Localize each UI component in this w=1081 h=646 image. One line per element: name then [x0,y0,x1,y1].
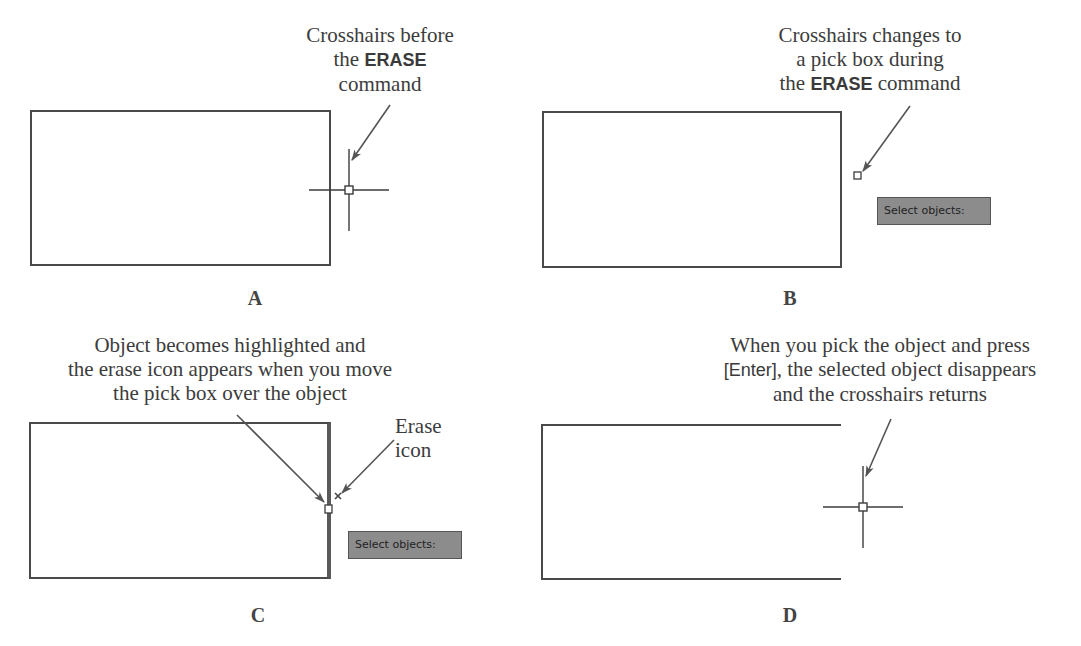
caption-line: When you pick the object and press [670,333,1081,357]
caption-line: Crosshairs before [290,23,470,47]
caption-line: Erase [395,414,475,438]
caption-line: the erase icon appears when you move [20,357,440,381]
caption-line: [Enter], the selected object disappears [670,357,1081,382]
panel-label: D [770,604,810,627]
arrow-c-erase-icon [342,440,394,493]
panel-label: C [238,604,278,627]
enter-key: [Enter] [724,360,777,380]
panel-d-caption: When you pick the object and press [Ente… [670,333,1081,406]
arrow-a [352,105,390,160]
panel-label: A [235,287,275,310]
arrow-d [866,419,891,476]
caption-line: the pick box over the object [20,381,440,405]
erased-rectangle-remnant [541,424,841,580]
caption-text: the [780,71,806,95]
rectangle-object[interactable] [542,111,842,268]
caption-line: Crosshairs changes to [745,23,995,47]
caption-line: Object becomes highlighted and [20,333,440,357]
caption-line: and the crosshairs returns [670,382,1081,406]
arrow-b [863,106,910,171]
erase-keyword: ERASE [810,74,872,94]
panel-label: B [770,287,810,310]
panel-c-caption: Object becomes highlighted and the erase… [20,333,440,405]
caption-text: command [878,71,961,95]
pick-box-cursor-icon [854,172,861,179]
select-objects-prompt: Select objects: [877,197,991,225]
rectangle-object[interactable] [30,110,331,266]
panel-a-caption: Crosshairs before the ERASE command [290,23,470,96]
select-objects-prompt: Select objects: [348,531,462,559]
panel-b-caption: Crosshairs changes to a pick box during … [745,23,995,96]
erase-keyword: ERASE [364,50,426,70]
caption-text: the [334,47,360,71]
caption-text: , the selected object disappears [777,357,1036,381]
erase-x-icon [335,493,341,499]
caption-line: the ERASE command [745,71,995,96]
caption-line: the ERASE [290,47,470,72]
erase-icon-caption: Erase icon [395,414,475,462]
caption-line: a pick box during [745,47,995,71]
highlighted-rectangle-object[interactable] [29,422,331,579]
caption-line: command [290,72,470,96]
caption-line: icon [395,438,475,462]
